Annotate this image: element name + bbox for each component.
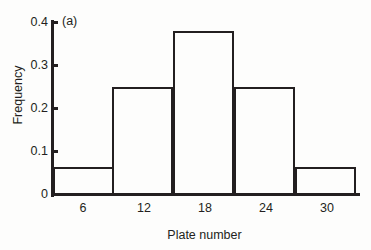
y-tick-label-0.4: 0.4 (12, 16, 48, 29)
x-tick-label-12: 12 (124, 202, 164, 215)
histogram-bar-18 (173, 31, 234, 195)
plot-area (53, 22, 358, 195)
histogram-figure: (a) Frequency 0.4 0.3 0.2 0.1 0 6 12 18 … (0, 0, 371, 250)
x-tick-label-6: 6 (63, 202, 103, 215)
histogram-bar-6 (53, 167, 114, 195)
x-tick-label-18: 18 (185, 202, 225, 215)
histogram-bar-24 (234, 87, 295, 195)
histogram-bar-30 (295, 167, 356, 195)
x-tick-label-30: 30 (307, 202, 347, 215)
y-tick-label-0: 0 (12, 188, 48, 201)
histogram-bar-12 (112, 87, 173, 195)
y-tick-label-0.2: 0.2 (12, 102, 48, 115)
x-tick-label-24: 24 (246, 202, 286, 215)
x-axis-title-text: Plate number (167, 228, 241, 242)
y-tick-label-0.1: 0.1 (12, 145, 48, 158)
y-tick-label-0.3: 0.3 (12, 59, 48, 72)
y-axis-tick-labels: 0.4 0.3 0.2 0.1 0 (8, 0, 48, 250)
x-axis-title: Plate number (0, 228, 371, 242)
